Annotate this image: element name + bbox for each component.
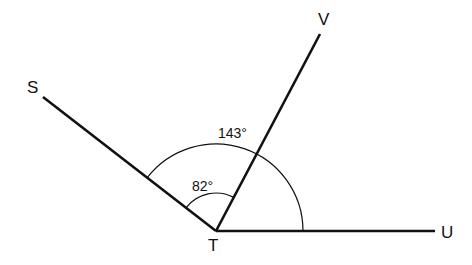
label-v: V (318, 10, 330, 29)
angle-diagram: S V U T 82° 143° (0, 0, 472, 265)
label-t: T (208, 236, 218, 255)
arc-angle-stu (147, 144, 303, 231)
arc-angle-stv (186, 193, 234, 208)
label-s: S (27, 78, 38, 97)
diagram-canvas: S V U T 82° 143° (0, 0, 472, 265)
ray-ts (43, 97, 216, 231)
angle-label-82: 82° (192, 178, 213, 194)
angle-label-143: 143° (218, 125, 247, 141)
label-u: U (441, 223, 453, 242)
